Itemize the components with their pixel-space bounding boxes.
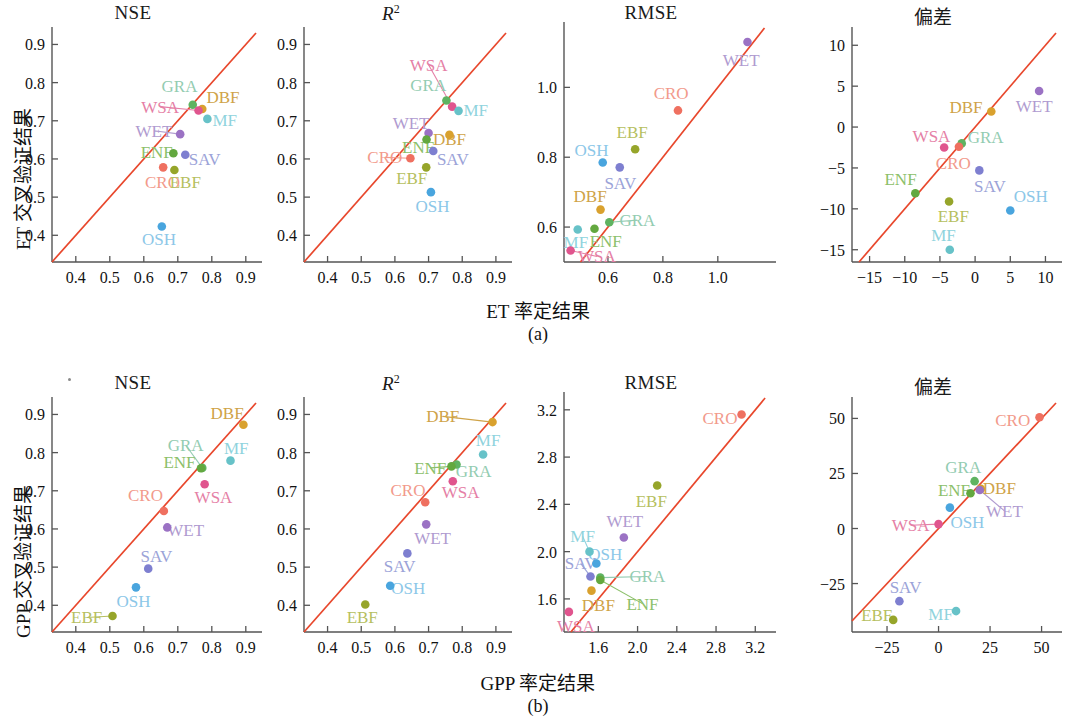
point-label-wsa: WSA <box>578 247 617 266</box>
y-tick-label: 25 <box>829 465 845 482</box>
point-label-gra: GRA <box>968 128 1005 147</box>
data-point-dbf <box>987 107 996 116</box>
data-point-dbf <box>239 420 248 429</box>
point-label-cro: CRO <box>367 148 402 167</box>
data-point-osh <box>592 559 601 568</box>
point-label-wet: WET <box>136 122 173 141</box>
data-point-mf <box>945 245 954 254</box>
plot-area-a4: −15−10−50510−15−10−50510WETDBFGRAWSACROS… <box>800 0 1066 310</box>
data-point-enf <box>447 462 456 471</box>
data-point-ebf <box>108 612 117 621</box>
scatter-panel-a4: 偏差−15−10−50510−15−10−50510WETDBFGRAWSACR… <box>800 0 1066 310</box>
y-tick-label: 1.0 <box>537 79 557 96</box>
x-tick-label: 0.7 <box>419 639 439 656</box>
data-point-ebf <box>631 145 640 154</box>
x-tick-label: 0.6 <box>134 639 154 656</box>
y-tick-label: 0.4 <box>277 227 297 244</box>
data-point-enf <box>966 489 975 498</box>
data-point-osh <box>946 503 955 512</box>
data-point-dbf <box>488 418 497 427</box>
x-tick-label: 0.4 <box>66 269 86 286</box>
data-point-wsa <box>565 608 574 617</box>
plot-area-b1: 0.40.50.60.70.80.90.40.50.60.70.80.9DBFM… <box>0 370 266 680</box>
y-tick-label: 2.8 <box>537 449 557 466</box>
plot-area-b2: 0.40.50.60.70.80.90.40.50.60.70.80.9DBFM… <box>258 370 524 680</box>
data-point-gra <box>970 477 979 486</box>
x-tick-label: 0.5 <box>351 639 371 656</box>
x-tick-label: 0.9 <box>486 639 506 656</box>
x-axis-label-row-a: ET 率定结果 <box>0 296 1076 323</box>
data-point-dbf <box>445 131 454 140</box>
data-point-enf <box>596 576 605 585</box>
y-tick-label: 0.9 <box>277 406 297 423</box>
point-label-ebf: EBF <box>861 606 892 625</box>
point-label-gra: GRA <box>162 77 199 96</box>
data-point-wsa <box>566 246 575 255</box>
point-label-dbf: DBF <box>582 596 615 615</box>
point-label-wet: WET <box>1016 97 1053 116</box>
y-tick-label: 5 <box>837 78 845 95</box>
point-label-wet: WET <box>986 502 1023 521</box>
scatter-panel-a3: RMSE0.60.81.00.60.81.0WETCROEBFOSHSAVDBF… <box>518 0 784 310</box>
y-tick-label: 0.6 <box>277 521 297 538</box>
point-label-ebf: EBF <box>396 169 427 188</box>
point-label-wsa: WSA <box>195 488 234 507</box>
y-tick-label: 0 <box>837 521 845 538</box>
point-label-sav: SAV <box>604 174 637 193</box>
point-label-wsa: WSA <box>892 516 931 535</box>
point-label-wet: WET <box>606 512 643 531</box>
point-label-gra: GRA <box>619 211 656 230</box>
x-tick-label: 0.5 <box>100 639 120 656</box>
y-tick-label: 0.9 <box>25 36 45 53</box>
plot-area-b4: −2502550−2502550CROGRADBFENFWETOSHWSASAV… <box>800 370 1066 680</box>
figure-row-a: NSE0.40.50.60.70.80.90.40.50.60.70.80.9G… <box>0 0 1076 310</box>
y-tick-label: 0.6 <box>537 219 557 236</box>
data-point-cro <box>955 142 964 151</box>
y-tick-label: 0.8 <box>25 75 45 92</box>
point-label-wet: WET <box>723 51 760 70</box>
point-label-cro: CRO <box>702 409 737 428</box>
x-tick-label: 3.2 <box>745 639 765 656</box>
x-tick-label: 0.8 <box>452 639 472 656</box>
y-tick-label: 0.4 <box>277 597 297 614</box>
data-point-wet <box>743 38 752 47</box>
data-point-sav <box>895 597 904 606</box>
subfigure-caption-b: (b) <box>0 696 1076 717</box>
point-label-ebf: EBF <box>71 608 102 627</box>
data-point-wet <box>1035 87 1044 96</box>
point-label-enf: ENF <box>163 453 195 472</box>
x-tick-label: 0.8 <box>653 269 673 286</box>
data-point-cro <box>406 154 415 163</box>
y-axis-label-row-a: ET 交叉验证结果 <box>8 108 35 250</box>
point-label-enf: ENF <box>938 481 970 500</box>
x-axis-label-row-b: GPP 率定结果 <box>0 668 1076 695</box>
point-label-enf: ENF <box>414 459 446 478</box>
scatter-panel-b2: R20.40.50.60.70.80.90.40.50.60.70.80.9DB… <box>258 370 524 680</box>
point-label-cro: CRO <box>936 154 971 173</box>
point-label-mf: MF <box>212 111 237 130</box>
data-point-cro <box>737 410 746 419</box>
x-tick-label: 0.8 <box>202 269 222 286</box>
point-label-mf: MF <box>224 439 249 458</box>
point-label-cro: CRO <box>995 411 1030 430</box>
data-point-wsa <box>940 143 949 152</box>
point-label-osh: OSH <box>574 141 608 160</box>
point-label-dbf: DBF <box>983 479 1016 498</box>
data-point-mf <box>454 107 463 116</box>
data-point-osh <box>1006 206 1015 215</box>
data-point-mf <box>203 115 212 124</box>
point-label-dbf: DBF <box>949 98 982 117</box>
x-tick-label: 2.0 <box>628 639 648 656</box>
point-label-mf: MF <box>931 226 956 245</box>
point-label-enf: ENF <box>141 143 173 162</box>
y-axis-label-row-b: GPP 交叉验证结果 <box>8 485 35 638</box>
figure-root: NSE0.40.50.60.70.80.90.40.50.60.70.80.9G… <box>0 0 1076 725</box>
data-point-sav <box>144 564 153 573</box>
data-point-wsa <box>200 480 209 489</box>
data-point-enf <box>911 189 920 198</box>
x-tick-label: 2.8 <box>706 639 726 656</box>
x-tick-label: 0 <box>971 269 979 286</box>
x-tick-label: 0.9 <box>486 269 506 286</box>
point-label-osh: OSH <box>142 230 176 249</box>
x-tick-label: 0.6 <box>385 269 405 286</box>
